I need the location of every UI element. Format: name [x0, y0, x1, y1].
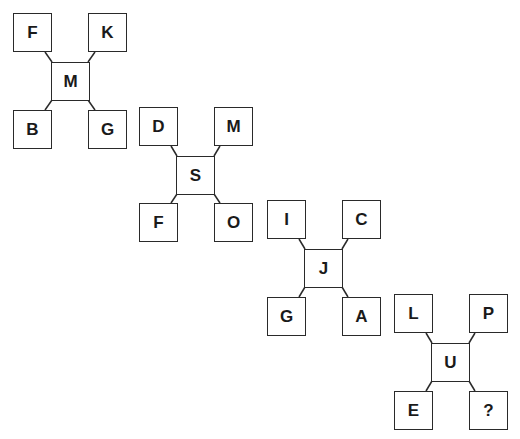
group3-center-box: J	[304, 249, 343, 288]
letter-puzzle-diagram: F K M B G D M S F O I C J G A L P U E ?	[0, 0, 520, 439]
group4-top-left-box: L	[394, 294, 433, 333]
group1-center-box: M	[51, 62, 90, 101]
group4-top-right-box: P	[469, 294, 508, 333]
group2-top-left-box: D	[139, 107, 178, 146]
group2-top-right-box: M	[214, 107, 253, 146]
group4-missing-answer-box: ?	[469, 391, 508, 430]
group2-center-box: S	[176, 156, 215, 195]
group3-top-left-box: I	[267, 200, 306, 239]
group3-top-right-box: C	[342, 200, 381, 239]
group1-bottom-left-box: B	[13, 110, 52, 149]
group2-bottom-right-box: O	[214, 203, 253, 242]
group3-bottom-left-box: G	[267, 297, 306, 336]
group1-top-left-box: F	[13, 13, 52, 52]
group2-bottom-left-box: F	[139, 203, 178, 242]
group4-bottom-left-box: E	[394, 391, 433, 430]
group1-bottom-right-box: G	[88, 110, 127, 149]
group1-top-right-box: K	[88, 13, 127, 52]
group3-bottom-right-box: A	[342, 297, 381, 336]
group4-center-box: U	[431, 343, 470, 382]
